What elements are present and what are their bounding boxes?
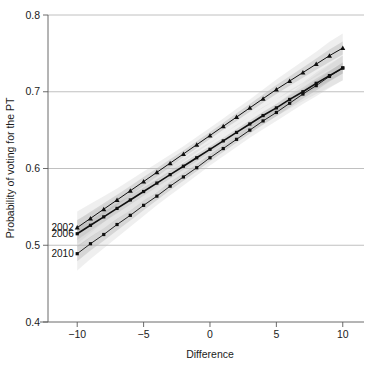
marker-2006--1 [195, 156, 198, 159]
marker-2006--6 [129, 198, 132, 201]
marker-2006--3 [169, 173, 172, 176]
marker-2006--9 [89, 224, 92, 227]
marker-2010-5 [275, 111, 278, 114]
series-annotation-2010: 2010 [51, 248, 74, 259]
chart-figure: 0.40.50.60.70.8−10−50510 200220062010 Di… [0, 0, 370, 366]
y-tick-label-0.5: 0.5 [25, 239, 40, 251]
y-tick-label-0.8: 0.8 [25, 9, 40, 21]
marker-2010-1 [222, 147, 225, 150]
marker-2010-8 [315, 84, 318, 87]
marker-2006--7 [115, 207, 118, 210]
marker-2010--6 [129, 214, 132, 217]
y-tick-label-0.4: 0.4 [25, 316, 40, 328]
marker-2010-6 [288, 102, 291, 105]
y-axis-title: Probability of voting for the PT [4, 97, 16, 238]
marker-2010--10 [76, 252, 79, 255]
marker-2010-10 [341, 66, 344, 69]
marker-2006--4 [155, 181, 158, 184]
marker-2010-2 [235, 138, 238, 141]
marker-2010-0 [208, 156, 211, 159]
marker-2010-3 [248, 129, 251, 132]
marker-2010-4 [261, 119, 264, 122]
marker-2006--5 [142, 190, 145, 193]
marker-2006-3 [248, 122, 251, 125]
marker-2010--5 [142, 204, 145, 207]
marker-2010--8 [102, 233, 105, 236]
marker-2010--2 [182, 175, 185, 178]
marker-2010--3 [169, 185, 172, 188]
x-tick-label--10: −10 [68, 328, 86, 340]
marker-2010-7 [301, 92, 304, 95]
marker-2010--7 [115, 223, 118, 226]
marker-2006-0 [208, 148, 211, 151]
marker-2006--8 [102, 215, 105, 218]
marker-2006-6 [288, 98, 291, 101]
marker-2006-5 [275, 106, 278, 109]
x-tick-label-10: 10 [337, 328, 349, 340]
y-tick-label-0.6: 0.6 [25, 162, 40, 174]
marker-2010--9 [89, 242, 92, 245]
marker-2006--10 [76, 232, 79, 235]
marker-2010-9 [328, 75, 331, 78]
x-tick-label-5: 5 [273, 328, 279, 340]
series-annotation-2006: 2006 [51, 228, 74, 239]
x-tick-label--5: −5 [138, 328, 150, 340]
x-axis-title: Difference [186, 348, 234, 360]
marker-2006-4 [261, 114, 264, 117]
y-tick-label-0.7: 0.7 [25, 85, 40, 97]
marker-2006-1 [222, 139, 225, 142]
x-tick-label-0: 0 [207, 328, 213, 340]
marker-2006-2 [235, 131, 238, 134]
marker-2006--2 [182, 165, 185, 168]
marker-2010--4 [155, 195, 158, 198]
line-chart: 0.40.50.60.70.8−10−50510 200220062010 Di… [0, 0, 370, 366]
marker-2010--1 [195, 166, 198, 169]
